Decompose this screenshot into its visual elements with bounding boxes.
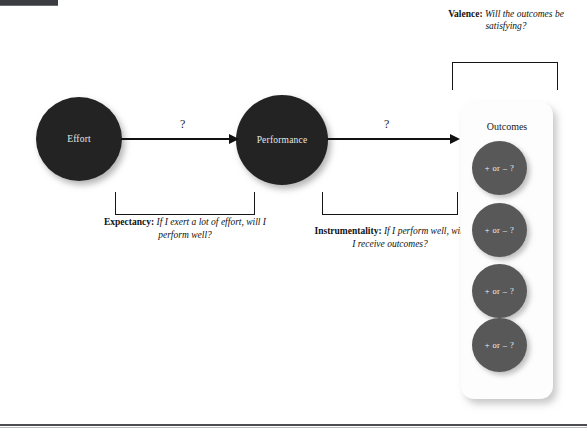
node-effort[interactable]: Effort: [36, 97, 122, 181]
caption-valence-text: Will the outcomes be satisfying?: [485, 9, 564, 31]
question-mark-expectancy: ?: [180, 117, 185, 132]
caption-instrumentality: Instrumentality: If I perform well, will…: [312, 225, 468, 250]
outcome-circle[interactable]: + or – ?: [472, 318, 527, 372]
outcome-circle[interactable]: + or – ?: [472, 264, 527, 318]
node-effort-label: Effort: [67, 134, 91, 144]
caption-expectancy-text: If I exert a lot of effort, will I perfo…: [157, 217, 267, 240]
outcome-circle[interactable]: + or – ?: [472, 141, 527, 195]
outcome-circle-label: + or – ?: [485, 286, 514, 296]
node-performance-label: Performance: [257, 135, 308, 145]
outcome-circle[interactable]: + or – ?: [472, 203, 527, 257]
outcome-circle-label: + or – ?: [485, 225, 514, 235]
caption-instrumentality-term: Instrumentality:: [315, 226, 382, 236]
arrow-effort-to-performance: [121, 138, 237, 140]
page-top-bar-fragment: [0, 0, 58, 6]
footer-rule: [0, 424, 587, 426]
outcome-circle-label: + or – ?: [485, 163, 514, 173]
caption-valence: Valence: Will the outcomes be satisfying…: [446, 8, 566, 33]
arrow-performance-to-outcomes-head: [450, 134, 460, 144]
footer-rule-highlight: [0, 427, 587, 428]
caption-expectancy: Expectancy: If I exert a lot of effort, …: [104, 216, 266, 241]
bracket-expectancy: [115, 192, 255, 215]
caption-expectancy-term: Expectancy:: [104, 217, 154, 227]
bracket-valence: [452, 62, 558, 90]
outcome-circle-label: + or – ?: [485, 340, 514, 350]
arrow-effort-to-performance-head: [229, 134, 239, 144]
node-performance[interactable]: Performance: [236, 95, 328, 185]
caption-valence-term: Valence:: [448, 9, 482, 19]
outcomes-label: Outcomes: [461, 121, 553, 132]
arrow-performance-to-outcomes: [327, 138, 458, 140]
expectancy-theory-figure: Valence: Will the outcomes be satisfying…: [0, 0, 587, 438]
question-mark-instrumentality: ?: [384, 117, 389, 132]
bracket-instrumentality: [322, 192, 458, 215]
